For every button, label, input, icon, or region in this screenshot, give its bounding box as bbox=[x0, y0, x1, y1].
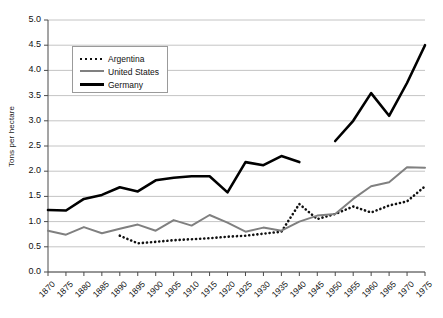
chart-container: Tons per hectare 0.00.51.01.52.02.53.03.… bbox=[0, 0, 443, 318]
legend-label-united-states: United States bbox=[108, 67, 159, 77]
y-tick-label: 1.5 bbox=[15, 190, 41, 200]
dotted-line-icon bbox=[80, 58, 104, 60]
y-tick-label: 0.0 bbox=[15, 266, 41, 276]
y-tick-label: 4.0 bbox=[15, 64, 41, 74]
legend-item-argentina: Argentina bbox=[79, 52, 167, 65]
series-line-germany bbox=[335, 45, 425, 141]
solid-gray-line-icon bbox=[80, 70, 104, 72]
legend-swatch-dotted-icon bbox=[79, 53, 105, 64]
series-line-argentina bbox=[120, 186, 425, 243]
y-tick-label: 3.0 bbox=[15, 115, 41, 125]
solid-black-line-icon bbox=[80, 83, 104, 86]
legend-label-argentina: Argentina bbox=[108, 54, 144, 64]
y-tick-label: 0.5 bbox=[15, 241, 41, 251]
y-tick-label: 2.5 bbox=[15, 140, 41, 150]
legend-swatch-black-icon bbox=[79, 79, 105, 90]
y-tick-label: 2.0 bbox=[15, 165, 41, 175]
legend-item-united-states: United States bbox=[79, 65, 167, 78]
legend-label-germany: Germany bbox=[108, 80, 143, 90]
y-tick-label: 5.0 bbox=[15, 14, 41, 24]
series-line-germany bbox=[48, 156, 299, 210]
plot-svg bbox=[0, 0, 443, 318]
y-tick-label: 4.5 bbox=[15, 39, 41, 49]
y-tick-label: 3.5 bbox=[15, 90, 41, 100]
y-tick-label: 1.0 bbox=[15, 216, 41, 226]
legend-swatch-gray-icon bbox=[79, 66, 105, 77]
legend: Argentina United States Germany bbox=[72, 46, 168, 93]
legend-item-germany: Germany bbox=[79, 78, 167, 91]
